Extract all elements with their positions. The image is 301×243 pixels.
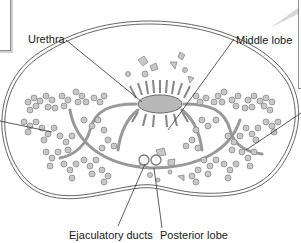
label-posterior-lobe: Posterior lobe [160,229,228,241]
left-gland-cluster [21,89,117,185]
label-middle-lobe: Middle lobe [236,34,292,46]
glandular-tissue [21,52,281,185]
label-ejaculatory-ducts: Ejaculatory ducts [69,229,153,241]
prostate-diagram: Urethra Middle lobe Ejaculatory ducts Po… [0,0,301,243]
ejaculatory-duct-rings [139,155,161,165]
label-urethra: Urethra [28,33,65,45]
ejaculatory-ducts-leader-line [118,164,145,226]
callout-pointer [270,8,298,28]
posterior-lobe-leader-line [154,168,162,228]
